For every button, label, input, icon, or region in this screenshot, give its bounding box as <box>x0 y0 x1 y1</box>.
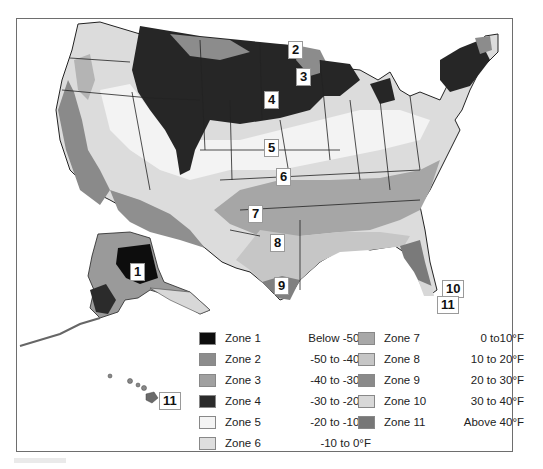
legend-swatch <box>358 416 375 429</box>
legend-zone-name: Zone 7 <box>384 332 420 344</box>
legend-zone-range: Above 40°F <box>434 416 524 428</box>
legend-zone-range: 30 to 40°F <box>434 395 524 407</box>
legend-swatch <box>199 416 216 429</box>
zone-label-4: 4 <box>264 91 279 109</box>
legend-item-zone-5: Zone 5 -20 to -10°F <box>199 414 216 430</box>
zone-label-11-florida: 11 <box>437 296 459 314</box>
legend-item-zone-1: Zone 1 Below -50°F <box>199 330 216 346</box>
legend-zone-range: 20 to 30°F <box>434 374 524 386</box>
zone-label-7: 7 <box>248 205 263 223</box>
legend-swatch <box>358 353 375 366</box>
legend-zone-name: Zone 10 <box>384 395 426 407</box>
legend-zone-name: Zone 6 <box>225 437 261 449</box>
legend-item-zone-7: Zone 7 0 to10°F <box>358 330 375 346</box>
legend-item-zone-10: Zone 10 30 to 40°F <box>358 393 375 409</box>
footer-smudge <box>14 458 66 463</box>
legend-item-zone-11: Zone 11 Above 40°F <box>358 414 375 430</box>
legend-zone-name: Zone 1 <box>225 332 261 344</box>
legend-item-zone-3: Zone 3 -40 to -30°F <box>199 372 216 388</box>
legend-swatch <box>199 437 216 450</box>
legend-zone-range: 0 to10°F <box>434 332 524 344</box>
legend-swatch <box>358 332 375 345</box>
legend-swatch <box>199 353 216 366</box>
zone-label-9: 9 <box>274 277 289 295</box>
zone-label-2: 2 <box>288 41 303 59</box>
zone-label-3: 3 <box>296 68 311 86</box>
legend-swatch <box>199 395 216 408</box>
legend-item-zone-2: Zone 2 -50 to -40°F <box>199 351 216 367</box>
legend-item-zone-8: Zone 8 10 to 20°F <box>358 351 375 367</box>
zone-label-5: 5 <box>264 139 279 157</box>
hawaii-islands <box>108 374 158 403</box>
legend-swatch <box>199 332 216 345</box>
legend-zone-name: Zone 3 <box>225 374 261 386</box>
legend-zone-name: Zone 5 <box>225 416 261 428</box>
zone-label-11-hawaii: 11 <box>159 392 181 410</box>
legend-zone-range: 10 to 20°F <box>434 353 524 365</box>
legend-item-zone-9: Zone 9 20 to 30°F <box>358 372 375 388</box>
legend-zone-name: Zone 2 <box>225 353 261 365</box>
legend-item-zone-6: Zone 6 -10 to 0°F <box>199 435 216 451</box>
zone-label-8: 8 <box>270 234 285 252</box>
legend-swatch <box>358 395 375 408</box>
legend-swatch <box>358 374 375 387</box>
legend-zone-name: Zone 11 <box>384 416 425 428</box>
legend-zone-range: -10 to 0°F <box>279 437 371 449</box>
legend-item-zone-4: Zone 4 -30 to -20°F <box>199 393 216 409</box>
legend-zone-name: Zone 9 <box>384 374 420 386</box>
legend-zone-name: Zone 4 <box>225 395 261 407</box>
legend-zone-name: Zone 8 <box>384 353 420 365</box>
zone-label-1: 1 <box>130 263 145 281</box>
zone-label-6: 6 <box>276 168 291 186</box>
legend-swatch <box>199 374 216 387</box>
